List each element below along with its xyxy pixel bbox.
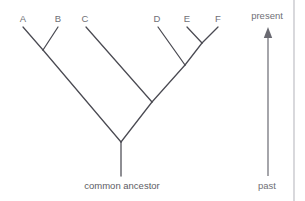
taxon-label-f: F	[211, 14, 225, 24]
branch-E	[187, 27, 202, 43]
taxon-label-b: B	[51, 14, 65, 24]
branch-C	[86, 27, 152, 102]
taxon-label-d: D	[150, 14, 164, 24]
branch-F	[202, 27, 218, 43]
time-arrow-head	[264, 27, 272, 38]
branch-B	[43, 27, 58, 50]
present-label: present	[243, 11, 291, 21]
branch-AB	[43, 50, 121, 142]
past-label: past	[248, 181, 286, 191]
branch-D	[158, 27, 185, 65]
branch-DEF	[152, 65, 185, 102]
phylogenetic-tree-figure: ABCDEF common ancestor present past	[0, 0, 305, 201]
branch-A	[23, 27, 43, 50]
branch-layer	[23, 27, 218, 176]
branch-EF	[185, 43, 202, 65]
time-axis-arrow	[264, 27, 272, 176]
branch-CDEF	[121, 102, 152, 142]
tree-drawing	[0, 0, 305, 201]
taxon-label-e: E	[180, 14, 194, 24]
taxon-label-a: A	[16, 14, 30, 24]
common-ancestor-label: common ancestor	[72, 181, 172, 191]
taxon-label-c: C	[78, 14, 92, 24]
